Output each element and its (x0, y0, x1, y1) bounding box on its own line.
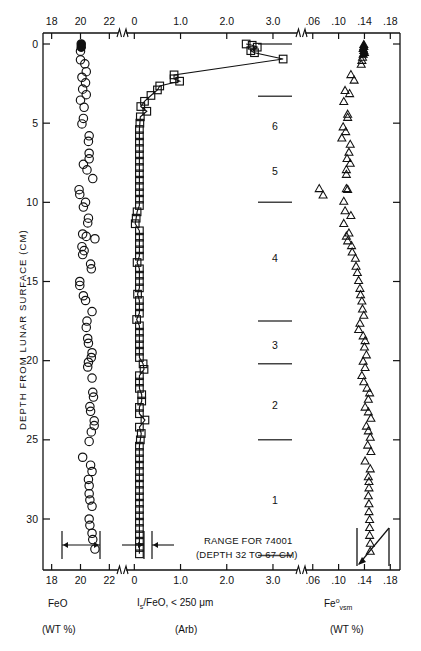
ytick-label-4: 20 (26, 354, 38, 366)
xtick-label-top-isfeo-0: 0 (131, 15, 137, 27)
fevsm-title-sub: vsm (340, 604, 353, 611)
fevsm-title-sup: o (336, 597, 340, 604)
layer-label-1: 1 (272, 494, 278, 506)
ytick-label-2: 10 (26, 196, 38, 208)
xtick-label-bottom-feo-0: 18 (46, 574, 58, 586)
xtick-label-top-feo-2: 22 (104, 15, 116, 27)
ytick-label-0: 0 (32, 38, 38, 50)
feo-axis-units: (WT %) (42, 624, 76, 635)
fevsm-axis-units: (WT %) (330, 624, 364, 635)
fevsm-axis-title: Feovsm (324, 597, 352, 611)
xtick-label-bottom-isfeo-2: 2.0 (219, 574, 234, 586)
xtick-label-bottom-fevsm-2: .14 (357, 574, 372, 586)
xtick-label-bottom-fevsm-1: .10 (331, 574, 346, 586)
xtick-label-bottom-isfeo-1: 1.0 (173, 574, 188, 586)
xtick-label-top-fevsm-0: .06 (305, 15, 320, 27)
precision-bar-isfeo (122, 531, 174, 559)
xtick-label-bottom-feo-1: 20 (75, 574, 87, 586)
ytick-label-6: 30 (26, 513, 38, 525)
xtick-label-top-isfeo-2: 2.0 (219, 15, 234, 27)
layer-label-2: 2 (272, 399, 278, 411)
range-annotation-line1: RANGE FOR 74001 (204, 535, 293, 546)
fevsm-data-series (315, 40, 375, 554)
range-annotation-line2: (DEPTH 32 TO 67 CM) (196, 549, 298, 560)
xtick-label-bottom-isfeo-0: 0 (131, 574, 137, 586)
xtick-label-top-feo-1: 20 (75, 15, 87, 27)
feo-data-series (75, 40, 99, 553)
layer-label-5: 5 (272, 165, 278, 177)
isfeo-data-series (131, 40, 286, 557)
isfeo-title-rest: /FeO, < 250 μm (143, 597, 213, 608)
xtick-label-bottom-feo-2: 22 (104, 574, 116, 586)
range-for-74001-indicator (357, 528, 389, 566)
isfeo-axis-title: Is/FeO, < 250 μm (137, 597, 213, 610)
layer-label-3: 3 (272, 339, 278, 351)
ytick-label-1: 5 (32, 117, 38, 129)
figure-root: DEPTH FROM LUNAR SURFACE (CM) 1818202022… (0, 0, 421, 651)
xtick-label-top-feo-0: 18 (46, 15, 58, 27)
layer-label-6: 6 (272, 120, 278, 132)
feo-axis-title: FeO (48, 598, 67, 609)
isfeo-connecting-line (135, 44, 283, 554)
fevsm-title-base: Fe (324, 598, 336, 609)
xtick-label-bottom-fevsm-0: .06 (305, 574, 320, 586)
xtick-label-top-isfeo-3: 3.0 (266, 15, 281, 27)
ytick-label-5: 25 (26, 433, 38, 445)
xtick-label-top-isfeo-1: 1.0 (173, 15, 188, 27)
xtick-label-top-fevsm-1: .10 (331, 15, 346, 27)
isfeo-axis-units: (Arb) (175, 624, 197, 635)
xtick-label-bottom-isfeo-3: 3.0 (266, 574, 281, 586)
ytick-label-3: 15 (26, 275, 38, 287)
xtick-label-top-fevsm-3: .18 (383, 15, 398, 27)
layer-label-4: 4 (272, 252, 278, 264)
xtick-label-bottom-fevsm-3: .18 (383, 574, 398, 586)
xtick-label-top-fevsm-2: .14 (357, 15, 372, 27)
